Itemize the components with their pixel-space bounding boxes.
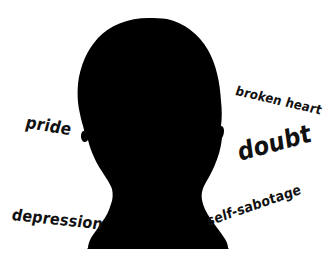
image-canvas: pride broken heart doubt depression self… <box>0 0 335 266</box>
shoulder-base-path <box>87 248 229 249</box>
